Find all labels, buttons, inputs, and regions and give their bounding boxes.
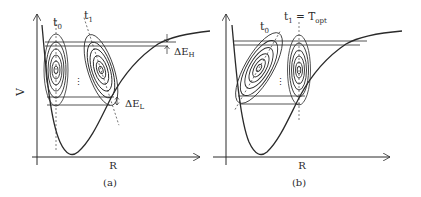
label-t0-b: t0 — [260, 20, 269, 35]
ellipsis-b: ⋮ — [276, 77, 285, 87]
wavepacket-t1 — [288, 22, 311, 120]
x-axis-label-b: R — [298, 160, 306, 171]
label-t1-topt-b: t1 = Topt — [284, 10, 327, 25]
label-delta-e-high: ΔEH — [174, 46, 195, 59]
wavepacket-t1 — [72, 14, 132, 130]
ellipsis-a: ⋮ — [74, 77, 83, 87]
delta-e-low-marker — [115, 97, 119, 105]
x-axis-label-a: R — [109, 160, 117, 171]
caption-b: (b) — [292, 177, 306, 188]
panel-b: ⋮ t0 t1 = Topt R (b) — [213, 10, 402, 188]
caption-a: (a) — [103, 177, 117, 188]
figure: ⋮ t0 t1 ΔEH ΔEL V R (a) — [0, 0, 421, 197]
label-t0-a: t0 — [53, 16, 62, 31]
panel-a: ⋮ t0 t1 ΔEH ΔEL V R (a) — [14, 9, 210, 188]
label-t1-a: t1 — [84, 9, 93, 24]
delta-e-high-marker — [165, 34, 170, 54]
potential-curve — [42, 25, 210, 155]
label-delta-e-low: ΔEL — [125, 98, 145, 111]
y-axis-label-a: V — [14, 87, 27, 97]
